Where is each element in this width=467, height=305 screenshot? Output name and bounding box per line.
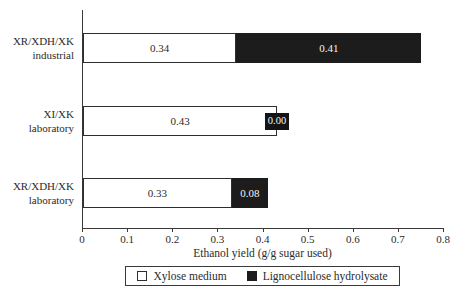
x-axis-tick xyxy=(127,228,128,232)
x-axis-tick xyxy=(82,228,83,232)
legend-item-lignocellulose-hydrolysate: Lignocellulose hydrolysate xyxy=(247,270,388,282)
bar-value-label: 0.08 xyxy=(240,188,259,199)
x-axis-tick-label: 0.2 xyxy=(155,233,189,245)
bar-value-label: 0.43 xyxy=(170,116,189,127)
bar-row: 0.340.41 xyxy=(83,33,444,63)
legend-label-xylose-medium: Xylose medium xyxy=(153,270,226,282)
x-axis-tick-label: 0.7 xyxy=(381,233,415,245)
x-axis-tick xyxy=(217,228,218,232)
x-axis-tick-label: 0.6 xyxy=(336,233,370,245)
legend-item-xylose-medium: Xylose medium xyxy=(137,270,226,282)
legend-label-lignocellulose-hydrolysate: Lignocellulose hydrolysate xyxy=(263,270,388,282)
bar-segment-xylose-medium: 0.33 xyxy=(83,178,232,208)
x-axis-tick-label: 0.5 xyxy=(291,233,325,245)
x-axis-tick-label: 0.8 xyxy=(426,233,460,245)
stacked-bar-chart: 0.340.410.430.000.330.08 XR/XDH/XKindust… xyxy=(0,0,467,305)
bar-row: 0.330.08 xyxy=(83,178,444,208)
x-axis-tick-label: 0 xyxy=(65,233,99,245)
x-axis-tick-label: 0.3 xyxy=(200,233,234,245)
x-axis-tick xyxy=(263,228,264,232)
bar-segment-lignocellulose-hydrolysate: 0.41 xyxy=(236,33,421,63)
x-axis-title: Ethanol yield (g/g sugar used) xyxy=(82,247,443,259)
legend: Xylose medium Lignocellulose hydrolysate xyxy=(125,266,399,286)
x-axis-tick xyxy=(443,228,444,232)
plot-area: 0.340.410.430.000.330.08 xyxy=(82,10,444,229)
x-axis-tick xyxy=(308,228,309,232)
category-label: XI/XKlaboratory xyxy=(0,106,74,136)
x-axis-tick-label: 0.1 xyxy=(110,233,144,245)
bar-value-label: 0.41 xyxy=(319,43,338,54)
bar-value-label-zero-box: 0.00 xyxy=(265,113,289,130)
bar-value-label: 0.34 xyxy=(150,43,169,54)
x-axis-tick xyxy=(353,228,354,232)
bar-row: 0.430.00 xyxy=(83,106,444,136)
x-axis-tick xyxy=(172,228,173,232)
bar-value-label: 0.33 xyxy=(148,188,167,199)
category-label: XR/XDH/XKlaboratory xyxy=(0,178,74,208)
x-axis-tick xyxy=(398,228,399,232)
x-axis-tick-label: 0.4 xyxy=(246,233,280,245)
category-axis-labels: XR/XDH/XKindustrialXI/XKlaboratoryXR/XDH… xyxy=(0,10,77,228)
lignocellulose-hydrolysate-swatch-icon xyxy=(247,271,257,281)
bar-segment-lignocellulose-hydrolysate: 0.08 xyxy=(232,178,268,208)
xylose-medium-swatch-icon xyxy=(137,271,147,281)
category-label: XR/XDH/XKindustrial xyxy=(0,33,74,63)
bar-segment-xylose-medium: 0.34 xyxy=(83,33,236,63)
bar-segment-xylose-medium: 0.43 xyxy=(83,106,277,136)
legend-container: Xylose medium Lignocellulose hydrolysate xyxy=(82,266,443,286)
